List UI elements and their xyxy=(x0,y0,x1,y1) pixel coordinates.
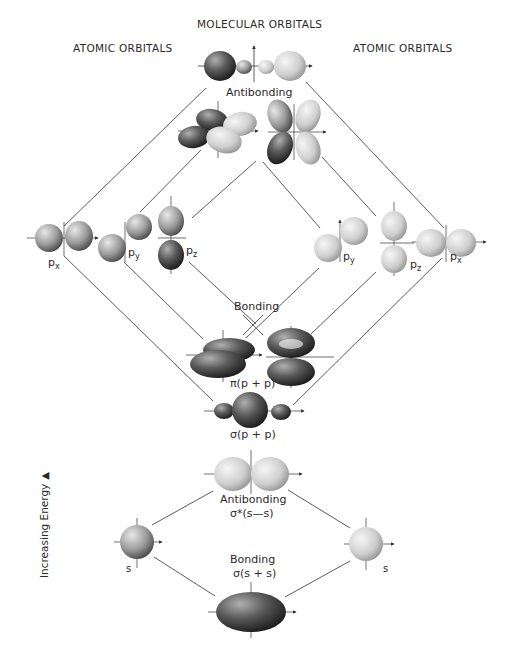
pi-star-orbital-right xyxy=(262,96,326,169)
right-pz-orbital xyxy=(380,202,414,276)
left-s-orbital xyxy=(114,518,162,568)
left-px-label: px xyxy=(48,256,60,271)
energy-axis-text: Increasing Energy xyxy=(38,484,50,578)
s-bonding-label: Bonding xyxy=(230,553,275,566)
left-pz-label: pz xyxy=(186,244,197,259)
sigma-pp-label: σ(p + p) xyxy=(230,428,276,441)
sigma-star-ss-orbital xyxy=(204,450,302,494)
pi-pp-label: π(p + p) xyxy=(230,377,275,390)
up-arrow-icon: ▲ xyxy=(39,472,50,480)
sigma-bonding-ss-orbital xyxy=(208,582,296,638)
right-px-label: px xyxy=(450,250,462,265)
right-px-orbital xyxy=(412,225,486,262)
energy-axis-label: Increasing Energy▲ xyxy=(38,472,50,578)
right-pz-label: pz xyxy=(410,258,421,273)
sigma-bonding-pp-orbital xyxy=(204,392,304,428)
left-s-label: s xyxy=(126,563,131,574)
sigma-ss-label: σ(s + s) xyxy=(233,567,276,580)
p-bonding-label: Bonding xyxy=(234,300,279,313)
left-px-orbital xyxy=(27,221,98,256)
atomic-orbitals-header-left: ATOMIC ORBITALS xyxy=(73,42,173,54)
s-antibonding-label: Antibonding xyxy=(220,493,287,506)
pi-bonding-orbital-left xyxy=(186,330,262,382)
pi-star-orbital-left xyxy=(177,101,259,158)
right-py-orbital xyxy=(314,217,368,262)
left-py-orbital xyxy=(98,214,152,262)
left-pz-orbital xyxy=(158,196,186,274)
left-py-label: py xyxy=(128,246,140,261)
p-antibonding-label: Antibonding xyxy=(226,86,293,99)
sigma-star-pp-orbital xyxy=(198,46,312,82)
right-py-label: py xyxy=(343,250,355,265)
pi-bonding-orbital-right xyxy=(266,326,334,388)
sigma-star-ss-label: σ*(s—s) xyxy=(230,507,274,520)
atomic-orbitals-header-right: ATOMIC ORBITALS xyxy=(353,42,453,54)
right-s-label: s xyxy=(383,563,388,574)
molecular-orbitals-header: MOLECULAR ORBITALS xyxy=(197,18,322,30)
